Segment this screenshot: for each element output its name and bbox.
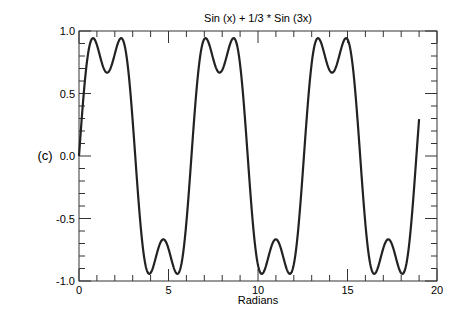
y-tick-label: 0.5 [60, 88, 75, 100]
y-tick-label: 0.0 [60, 150, 75, 162]
x-tick-label: 0 [76, 284, 82, 296]
x-axis-label: Radians [238, 294, 279, 306]
axis-ticks [79, 31, 437, 281]
x-tick-label: 20 [431, 284, 443, 296]
x-tick-label: 5 [165, 284, 171, 296]
y-tick-label: -0.5 [56, 213, 75, 225]
panel-label: (c) [37, 148, 52, 163]
chart-title: Sin (x) + 1/3 * Sin (3x) [204, 12, 312, 24]
y-tick-label: -1.0 [56, 275, 75, 287]
y-tick-label: 1.0 [60, 25, 75, 37]
data-line [79, 38, 419, 274]
sine-chart: Sin (x) + 1/3 * Sin (3x) (c) 05101520 -1… [0, 0, 460, 321]
y-tick-labels: -1.0-0.50.00.51.0 [56, 25, 75, 287]
plot-frame [79, 31, 437, 281]
x-tick-label: 15 [341, 284, 353, 296]
